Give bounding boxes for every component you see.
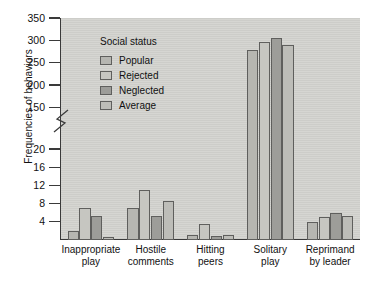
legend-swatch-icon	[100, 71, 112, 80]
y-tick-mark	[49, 203, 60, 204]
y-tick-label: 250	[0, 57, 45, 68]
legend-label: Neglected	[119, 85, 164, 96]
x-label-line: Solitary	[240, 244, 300, 256]
bar	[127, 208, 138, 240]
bar	[319, 217, 330, 240]
legend-label: Popular	[119, 55, 153, 66]
x-label-line: play	[61, 256, 121, 268]
legend-item: Rejected	[100, 69, 164, 83]
y-tick-label: 4	[0, 216, 45, 227]
y-tick-mark	[49, 84, 60, 85]
bar	[259, 42, 270, 240]
y-tick-label: 200	[0, 80, 45, 91]
legend-item: Average	[100, 99, 164, 113]
x-axis-label: Hittingpeers	[181, 244, 241, 267]
bar	[342, 216, 353, 240]
y-tick-mark	[49, 221, 60, 222]
x-label-line: peers	[181, 256, 241, 268]
legend-label: Average	[119, 100, 156, 111]
legend-swatch-icon	[100, 101, 112, 110]
y-tick-label: 12	[0, 180, 45, 191]
x-label-line: by leader	[300, 256, 360, 268]
bar	[282, 45, 293, 240]
bar	[151, 216, 162, 240]
bar	[187, 235, 198, 240]
bar	[223, 235, 234, 240]
legend-items: PopularRejectedNeglectedAverage	[100, 54, 164, 113]
bar	[139, 190, 150, 240]
x-axis-label: Inappropriateplay	[61, 244, 121, 267]
bar	[103, 237, 114, 240]
legend-item: Neglected	[100, 84, 164, 98]
x-axis-label: Hostilecomments	[121, 244, 181, 267]
x-label-line: Inappropriate	[61, 244, 121, 256]
bar	[163, 201, 174, 240]
y-tick-label: 350	[0, 13, 45, 24]
x-axis-label: Reprimandby leader	[300, 244, 360, 267]
legend-swatch-icon	[100, 56, 112, 65]
legend-item: Popular	[100, 54, 164, 68]
legend-swatch-icon	[100, 86, 112, 95]
bar-chart-figure: Frequencies of behaviors 481216201502002…	[0, 0, 383, 285]
y-tick-label: 300	[0, 35, 45, 46]
y-tick-mark	[49, 148, 60, 149]
x-label-line: play	[240, 256, 300, 268]
y-tick-label: 8	[0, 198, 45, 209]
legend-label: Rejected	[119, 70, 158, 81]
legend: Social status PopularRejectedNeglectedAv…	[100, 36, 164, 114]
y-tick-mark	[49, 40, 60, 41]
bar	[271, 38, 282, 240]
y-tick-mark	[49, 107, 60, 108]
axis-break-symbol	[52, 108, 72, 134]
y-tick-mark	[49, 62, 60, 63]
x-label-line: Hitting	[181, 244, 241, 256]
bar	[247, 50, 258, 240]
y-tick-mark	[49, 185, 60, 186]
x-label-line: comments	[121, 256, 181, 268]
bar	[91, 216, 102, 240]
x-label-line: Hostile	[121, 244, 181, 256]
y-tick-mark	[49, 17, 60, 18]
y-tick-label: 20	[0, 144, 45, 155]
y-tick-label: 150	[0, 102, 45, 113]
legend-title: Social status	[100, 36, 164, 47]
bar	[307, 222, 318, 240]
x-axis-label: Solitaryplay	[240, 244, 300, 267]
bar	[199, 224, 210, 240]
bar	[211, 236, 222, 240]
y-tick-label: 16	[0, 162, 45, 173]
bar	[79, 208, 90, 240]
y-tick-mark	[49, 167, 60, 168]
bar	[330, 213, 341, 240]
x-label-line: Reprimand	[300, 244, 360, 256]
bar	[68, 231, 79, 240]
